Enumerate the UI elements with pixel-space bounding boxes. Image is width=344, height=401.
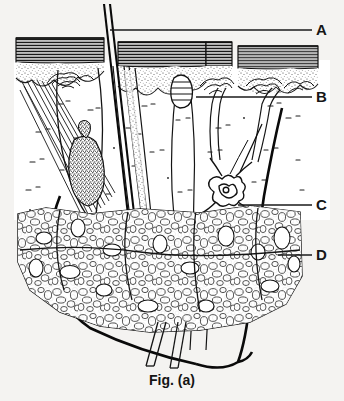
label-b: B (316, 89, 327, 104)
label-a: A (316, 22, 327, 37)
figure-container: A B C D Fig. (a) (0, 0, 344, 401)
figure-caption: Fig. (a) (0, 372, 344, 388)
sensory-receptor-corpuscle (171, 75, 193, 108)
label-c: C (316, 197, 327, 212)
skin-cross-section-diagram (0, 0, 344, 401)
label-d: D (316, 247, 327, 262)
subcutaneous-fat-layer (18, 206, 308, 336)
